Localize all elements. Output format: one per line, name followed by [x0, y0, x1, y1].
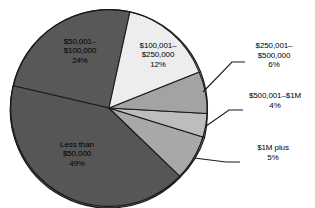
pie-callout-label-250k-500k: $250,001– $500,000 6%: [238, 41, 310, 70]
pie-callout-label-1m-plus-line2: 5%: [240, 153, 306, 163]
pie-callout-label-250k-500k-line3: 6%: [238, 60, 310, 70]
pie-callout-label-1m-plus: $1M plus 5%: [240, 143, 306, 162]
leader-line-500k-1m: [206, 110, 243, 126]
pie-callout-label-250k-500k-line1: $250,001–: [238, 41, 310, 51]
pie-chart: $50,001– $100,000 24% $100,001– $250,000…: [0, 0, 315, 208]
pie-callout-label-500k-1m: $500,001–$1M 4%: [236, 91, 314, 110]
pie-callout-label-1m-plus-line1: $1M plus: [240, 143, 306, 153]
pie-callout-label-500k-1m-line2: 4%: [236, 101, 314, 111]
leader-line-1m-plus: [194, 158, 240, 162]
pie-callout-label-250k-500k-line2: $500,000: [238, 51, 310, 61]
pie-callout-label-500k-1m-line1: $500,001–$1M: [236, 91, 314, 101]
